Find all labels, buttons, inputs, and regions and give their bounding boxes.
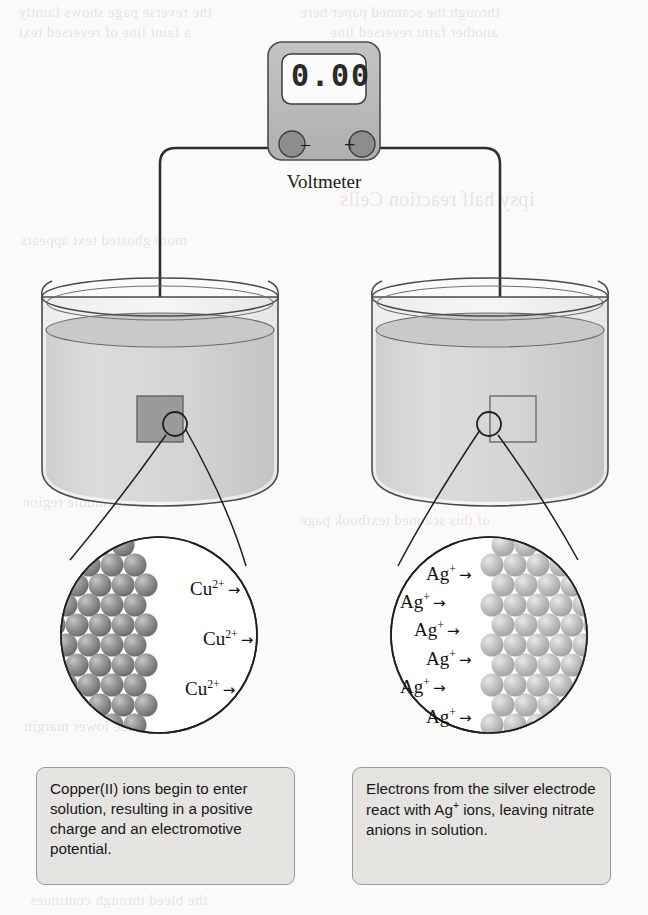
arrow-icon: → (447, 622, 460, 640)
beaker-left (42, 278, 279, 506)
ion-label-cu-1: Cu2+→ (190, 578, 240, 600)
caption-silver-line4: in solution. (415, 821, 488, 838)
ion-label-cu-2: Cu2+→ (203, 628, 253, 650)
ion-label-ag-4: Ag+→ (426, 648, 471, 670)
arrow-icon: → (459, 651, 472, 669)
caption-silver-line1: Electrons from the silver (366, 780, 529, 797)
ion-label-ag-6: Ag+→ (426, 706, 471, 728)
arrow-icon: → (433, 679, 446, 697)
arrow-icon: → (223, 681, 236, 699)
caption-silver-charge: + (453, 800, 459, 811)
copper-atom-lattice (32, 534, 158, 737)
terminal-negative-symbol: − (300, 134, 311, 157)
arrow-icon: → (433, 594, 446, 612)
beaker-right (372, 278, 609, 506)
caption-silver: Electrons from the silver electrode reac… (352, 767, 611, 885)
arrow-icon: → (459, 709, 472, 727)
solution-surface-left (46, 313, 274, 347)
ion-label-ag-2: Ag+→ (400, 591, 445, 613)
arrow-icon: → (459, 566, 472, 584)
caption-copper: Copper(II) ions begin to enter solution,… (36, 767, 295, 885)
ion-label-ag-3: Ag+→ (414, 619, 459, 641)
voltmeter-label: Voltmeter (0, 171, 648, 193)
ion-label-ag-1: Ag+→ (426, 563, 471, 585)
arrow-icon: → (228, 581, 241, 599)
ion-label-cu-3: Cu2+→ (185, 678, 235, 700)
figure-page: the reverse page shows faintly through t… (0, 0, 648, 915)
terminal-positive-symbol: + (344, 134, 355, 157)
ion-label-ag-5: Ag+→ (400, 676, 445, 698)
arrow-icon: → (241, 631, 254, 649)
voltmeter-reading: 0.00 (281, 58, 381, 93)
solution-surface-right (376, 313, 604, 347)
